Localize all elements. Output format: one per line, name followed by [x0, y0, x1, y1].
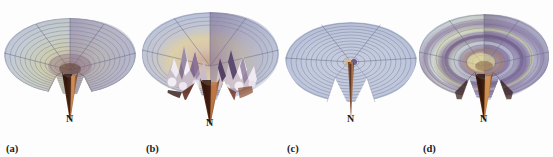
spike-label-n-a: N	[66, 114, 73, 124]
figure-panel-d: N (d)	[415, 0, 553, 157]
figure-panel-c: N (c)	[281, 0, 421, 157]
figure-panel-a: N (a)	[0, 0, 140, 157]
surface-plot-c	[281, 0, 421, 128]
spike-label-n-d: N	[480, 114, 487, 124]
figure-panel-b: N (b)	[138, 0, 283, 157]
panel-caption-c: (c)	[287, 144, 299, 155]
surface-plot-a	[0, 0, 140, 128]
spike-label-n-c: N	[347, 114, 354, 124]
surface-plot-d	[415, 0, 553, 128]
panel-caption-d: (d)	[423, 144, 436, 155]
figure-panel-row: N (a)	[0, 0, 553, 157]
panel-caption-b: (b)	[146, 144, 159, 155]
surface-plot-b	[138, 0, 283, 128]
spike-label-n-b: N	[206, 118, 213, 128]
panel-caption-a: (a)	[6, 144, 18, 155]
